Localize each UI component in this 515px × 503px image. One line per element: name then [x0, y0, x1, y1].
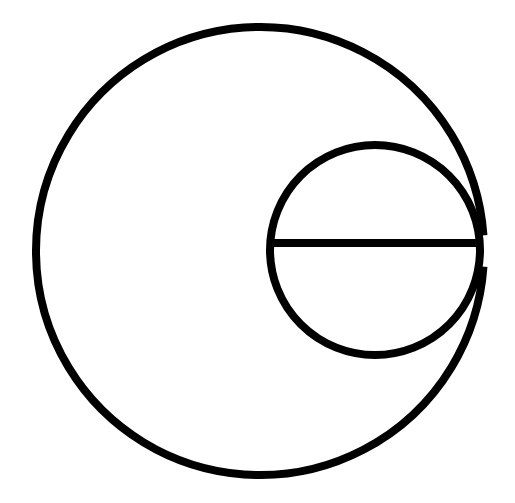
logo-canvas — [0, 0, 515, 503]
letter-e-logo-icon — [0, 0, 515, 503]
background-plate — [0, 0, 515, 503]
